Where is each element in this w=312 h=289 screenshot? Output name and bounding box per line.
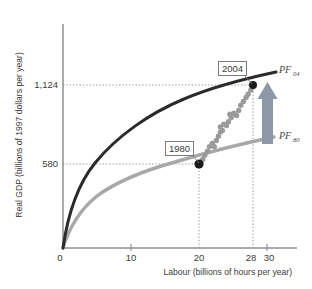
growth-arrow-head [258, 82, 278, 99]
x-tick-label-30: 30 [264, 252, 275, 263]
scatter-point [212, 144, 217, 149]
curve-label-pf04-text: PF [278, 64, 292, 75]
curve-label-pf80-text: PF [278, 130, 292, 141]
y-tick-label-1124: 1,124 [34, 79, 58, 90]
curve-label-pf80-sub: 80 [293, 136, 300, 143]
x-tick-label-20: 20 [194, 252, 205, 263]
chart-svg: 1980 2004 PF 04 PF 80 1,124 580 0 10 20 … [0, 0, 312, 289]
x-tick-label-28: 28 [246, 252, 257, 263]
scatter-observations [198, 84, 256, 166]
production-function-chart: 1980 2004 PF 04 PF 80 1,124 580 0 10 20 … [0, 0, 312, 289]
y-tick-label-580: 580 [42, 158, 58, 169]
axes [63, 24, 297, 248]
scatter-point [205, 149, 210, 154]
scatter-point [234, 113, 239, 118]
growth-arrow [258, 82, 278, 144]
x-axis-title: Labour (billions of hours per year) [164, 267, 293, 277]
callout-2004-label: 2004 [222, 63, 243, 74]
scatter-point [236, 108, 241, 113]
x-tick-label-0: 0 [57, 252, 62, 263]
curve-label-pf80: PF 80 [278, 130, 300, 143]
y-axis-title: Real GDP (billions of 1997 dollars per y… [14, 52, 24, 218]
x-tick-label-10: 10 [126, 252, 137, 263]
growth-arrow-shaft [262, 96, 273, 144]
curve-label-pf04: PF 04 [278, 64, 300, 77]
callout-1980-label: 1980 [169, 143, 190, 154]
curve-label-pf04-sub: 04 [293, 70, 300, 77]
point-1980 [194, 159, 203, 168]
